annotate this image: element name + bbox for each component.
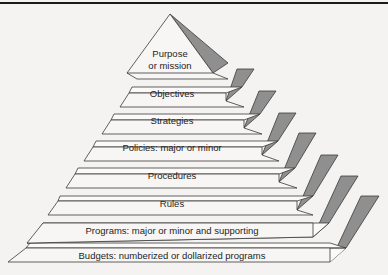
level-label-procedures: Procedures	[148, 170, 197, 181]
level-label-purpose-line1: Purpose	[152, 48, 187, 59]
ledge-rules	[58, 196, 313, 201]
level-label-objectives: Objectives	[150, 88, 195, 99]
face-budgets	[26, 243, 346, 248]
side-face-strategies	[244, 91, 276, 128]
planning-hierarchy-pyramid: Purpose or mission Objectives Strategies…	[0, 0, 388, 275]
level-label-policies: Policies: major or minor	[122, 142, 221, 153]
side-face-objectives	[226, 69, 254, 101]
level-label-programs: Programs: major or minor and supporting	[85, 225, 258, 236]
level-label-budgets: Budgets: numberized or dollarized progra…	[79, 250, 266, 261]
level-label-rules: Rules	[160, 198, 185, 209]
side-face-policies	[262, 113, 296, 155]
side-face-procedures	[279, 133, 316, 182]
level-label-strategies: Strategies	[151, 115, 194, 126]
level-label-purpose-line2: or mission	[148, 60, 191, 71]
